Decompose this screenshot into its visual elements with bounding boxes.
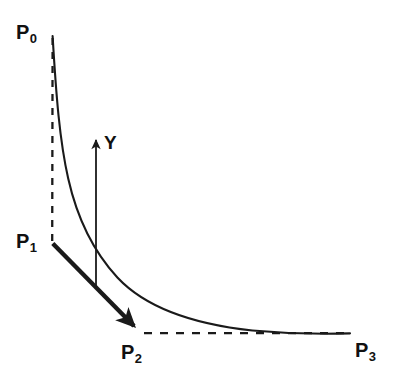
point-label-p2-subscript: 2: [135, 351, 142, 366]
diagram-vector-layer: [0, 0, 397, 384]
point-label-p2-base: P: [121, 341, 134, 363]
y-arrow-label: Y: [104, 133, 117, 152]
point-label-p1-base: P: [16, 230, 29, 252]
point-label-p3: P3: [355, 340, 376, 360]
point-label-p0-base: P: [16, 21, 29, 43]
point-label-p1-subscript: 1: [30, 240, 37, 255]
point-label-p3-base: P: [355, 339, 368, 361]
point-label-p2: P2: [121, 342, 142, 362]
point-label-p3-subscript: 3: [369, 349, 376, 364]
point-label-p0-subscript: 0: [30, 31, 37, 46]
diagram-canvas: P0 P1 P2 P3 Y: [0, 0, 397, 384]
point-label-p1: P1: [16, 231, 37, 251]
point-label-p0: P0: [16, 22, 37, 42]
p1-p2-chord-arrow: [53, 244, 134, 327]
